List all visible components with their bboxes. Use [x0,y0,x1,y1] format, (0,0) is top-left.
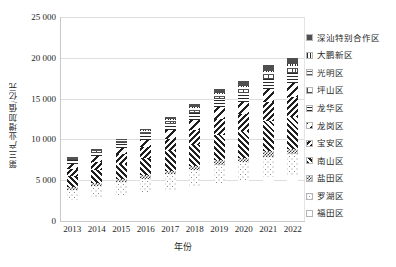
bar-segment[interactable] [165,130,176,139]
bar-segment[interactable] [140,135,151,140]
bar-segment[interactable] [238,114,249,131]
bar-segment[interactable] [116,139,127,140]
bar-segment[interactable] [91,153,102,157]
bar-segment[interactable] [238,181,249,221]
bar-segment[interactable] [238,158,249,163]
bar-segment[interactable] [238,90,249,93]
bar-segment[interactable] [287,83,298,97]
bar-segment[interactable] [238,102,249,114]
bar-segment[interactable] [263,157,274,177]
bar-segment[interactable] [238,86,249,87]
bar-group[interactable] [67,17,78,221]
legend-item[interactable]: 龙华区 [306,99,394,117]
bar-segment[interactable] [189,113,200,120]
bar-segment[interactable] [165,151,176,171]
bar-segment[interactable] [287,64,298,66]
bar-segment[interactable] [263,72,274,75]
bar-segment[interactable] [238,131,249,158]
bar-segment[interactable] [189,170,200,186]
bar-group[interactable] [189,17,200,221]
bar-segment[interactable] [140,131,151,133]
legend-item[interactable]: 盐田区 [306,170,394,188]
bar-segment[interactable] [91,151,102,152]
bar-segment[interactable] [238,162,249,181]
bar-segment[interactable] [238,81,249,86]
bar-segment[interactable] [140,192,151,221]
legend-item[interactable]: 南山区 [306,152,394,170]
bar-segment[interactable] [214,160,225,165]
bar-segment[interactable] [189,111,200,114]
bar-segment[interactable] [214,107,225,118]
bar-group[interactable] [116,17,127,221]
bar-segment[interactable] [214,89,225,93]
bar-segment[interactable] [287,73,298,83]
bar-segment[interactable] [116,143,127,148]
bar-segment[interactable] [116,182,127,195]
bar-segment[interactable] [214,119,225,135]
bar-segment[interactable] [189,107,200,108]
bar-group[interactable] [140,17,151,221]
bar-segment[interactable] [140,179,151,193]
bar-segment[interactable] [116,195,127,221]
bar-segment[interactable] [287,175,298,221]
bar-group[interactable] [287,17,298,221]
bar-segment[interactable] [287,97,298,117]
bar-segment[interactable] [67,157,78,158]
bar-segment[interactable] [214,94,225,97]
bar-segment[interactable] [263,79,274,89]
bar-segment[interactable] [287,154,298,175]
legend-item[interactable]: 深汕特别合作区 [306,29,394,47]
bar-segment[interactable] [189,104,200,107]
bar-segment[interactable] [140,130,151,131]
bar-segment[interactable] [140,175,151,179]
bar-segment[interactable] [189,108,200,110]
bar-segment[interactable] [165,119,176,120]
bar-segment[interactable] [165,120,176,122]
legend-item[interactable]: 福田区 [306,205,394,223]
bar-segment[interactable] [263,75,274,79]
bar-segment[interactable] [189,186,200,221]
bar-segment[interactable] [67,176,78,187]
legend-item[interactable]: 大鹏新区 [306,47,394,65]
bar-segment[interactable] [263,65,274,71]
bar-segment[interactable] [91,198,102,221]
bar-segment[interactable] [238,93,249,101]
bar-segment[interactable] [116,164,127,179]
bar-segment[interactable] [214,165,225,183]
bar-segment[interactable] [238,87,249,90]
bar-segment[interactable] [165,139,176,151]
legend-item[interactable]: 坪山区 [306,82,394,100]
bar-group[interactable] [214,17,225,221]
bar-segment[interactable] [189,144,200,166]
bar-segment[interactable] [214,183,225,221]
bar-segment[interactable] [140,140,151,148]
bar-segment[interactable] [91,183,102,186]
legend-item[interactable]: 罗湖区 [306,187,394,205]
bar-segment[interactable] [165,190,176,221]
bar-segment[interactable] [214,99,225,107]
bar-segment[interactable] [116,142,127,144]
bar-segment[interactable] [67,169,78,176]
bar-segment[interactable] [287,149,298,154]
legend-item[interactable]: 光明区 [306,64,394,82]
bar-segment[interactable] [116,154,127,163]
bar-segment[interactable] [263,102,274,121]
bar-segment[interactable] [116,179,127,182]
bar-segment[interactable] [91,186,102,197]
bar-segment[interactable] [165,174,176,189]
bar-segment[interactable] [263,89,274,103]
bar-segment[interactable] [214,135,225,160]
bar-segment[interactable] [287,66,298,69]
bar-segment[interactable] [140,158,151,175]
bar-segment[interactable] [165,171,176,175]
bar-segment[interactable] [67,187,78,190]
bar-segment[interactable] [189,166,200,170]
bar-segment[interactable] [165,124,176,130]
bar-segment[interactable] [263,71,274,72]
bar-segment[interactable] [67,164,78,169]
bar-segment[interactable] [165,117,176,119]
bar-segment[interactable] [116,148,127,155]
bar-group[interactable] [165,17,176,221]
bar-segment[interactable] [116,140,127,141]
bar-group[interactable] [263,17,274,221]
